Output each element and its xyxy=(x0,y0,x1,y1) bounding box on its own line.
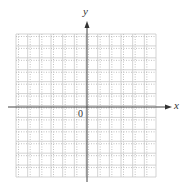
x-axis-arrow-icon xyxy=(165,105,172,110)
y-axis-arrow-icon xyxy=(85,21,90,28)
origin-label: 0 xyxy=(78,109,83,119)
coordinate-plane xyxy=(0,0,182,183)
x-axis-label: x xyxy=(174,100,179,111)
grid xyxy=(16,34,156,177)
y-axis-label: y xyxy=(83,6,88,17)
